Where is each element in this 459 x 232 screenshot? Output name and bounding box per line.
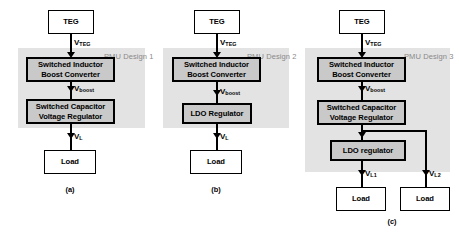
signal-vteg-b-sub: TEG (225, 41, 236, 47)
pmu-label-c: PMU Design 3 (404, 52, 448, 62)
teg-source-a: TEG (48, 10, 94, 34)
caption-c: (c) (372, 218, 412, 226)
block-sc-voltage-regulator-a-line2: Voltage Regulator (39, 112, 103, 121)
arrowhead-branch-to-ldo-c (358, 132, 366, 138)
block-ldo-regulator-b-line1: LDO Regulator (191, 109, 244, 118)
signal-vboost-b: Vboost (220, 88, 240, 96)
signal-vl1-c: VL1 (365, 170, 377, 178)
signal-vl-a: VL (74, 133, 83, 141)
caption-a: (a) (50, 186, 90, 194)
signal-vboost-a: Vboost (74, 85, 94, 93)
caption-b: (b) (196, 186, 236, 194)
pmu-label-c-line1: PMU (404, 52, 421, 61)
signal-vteg-c-sub: TEG (370, 41, 381, 47)
block-ldo-regulator-c-line1: LDO regulator (343, 146, 393, 155)
signal-vteg-a-sub: TEG (79, 41, 90, 47)
pmu-label-c-line2: Design 3 (423, 52, 453, 61)
signal-vboost-b-sub: boost (225, 90, 240, 96)
block-ldo-regulator-b: LDO Regulator (182, 103, 252, 124)
load-b-label: Load (207, 157, 225, 166)
block-boost-converter-b-line2: Boost Converter (187, 70, 246, 79)
signal-vteg-c: VTEG (365, 39, 381, 47)
block-boost-converter-a-line2: Boost Converter (41, 70, 100, 79)
signal-vl-a-sub: L (79, 135, 82, 141)
signal-vteg-b: VTEG (220, 39, 236, 47)
signal-vl2-c: VL2 (429, 170, 441, 178)
block-boost-converter-a: Switched Inductor Boost Converter (26, 57, 115, 82)
block-boost-converter-b: Switched Inductor Boost Converter (172, 57, 261, 82)
block-boost-converter-c-line2: Boost Converter (332, 70, 391, 79)
block-sc-voltage-regulator-c-line2: Voltage Regulator (330, 113, 394, 122)
signal-vboost-c: Vboost (365, 85, 385, 93)
load1-c-label: Load (352, 194, 370, 203)
load2-c-label: Load (416, 194, 434, 203)
signal-vboost-c-sub: boost (370, 87, 385, 93)
block-sc-voltage-regulator-c: Switched Capacitor Voltage Regulator (317, 100, 406, 125)
load2-c: Load (400, 187, 450, 211)
load-a-label: Load (61, 157, 79, 166)
load1-c: Load (336, 187, 386, 211)
branch-horizontal-c (361, 130, 427, 132)
signal-vboost-a-sub: boost (79, 87, 94, 93)
signal-vteg-a: VTEG (74, 39, 90, 47)
pmu-design-comparison-figure: PMU Design 1 TEG VTEG Switched Inductor … (0, 0, 459, 232)
load-b: Load (190, 150, 242, 174)
pmu-label-b-line2: Design 2 (266, 52, 296, 61)
teg-source-b-label: TEG (209, 17, 224, 26)
block-boost-converter-c: Switched Inductor Boost Converter (317, 57, 406, 82)
teg-source-c-label: TEG (354, 17, 369, 26)
block-sc-voltage-regulator-c-line1: Switched Capacitor (327, 103, 397, 112)
block-boost-converter-c-line1: Switched Inductor (329, 60, 394, 69)
block-sc-voltage-regulator-a: Switched Capacitor Voltage Regulator (26, 99, 115, 124)
pmu-label-a-line2: Design 1 (123, 52, 153, 61)
block-ldo-regulator-c: LDO regulator (330, 140, 406, 161)
load-a: Load (44, 150, 96, 174)
connector-branch-to-load2-c (425, 130, 427, 187)
teg-source-a-label: TEG (63, 17, 78, 26)
block-sc-voltage-regulator-a-line1: Switched Capacitor (36, 102, 106, 111)
signal-vl-b-sub: L (225, 135, 228, 141)
signal-vl2-c-sub: L2 (434, 172, 440, 178)
signal-vl1-c-sub: L1 (370, 172, 376, 178)
block-boost-converter-a-line1: Switched Inductor (38, 60, 103, 69)
teg-source-c: TEG (339, 10, 385, 34)
signal-vl-b: VL (220, 133, 229, 141)
teg-source-b: TEG (194, 10, 240, 34)
block-boost-converter-b-line1: Switched Inductor (184, 60, 249, 69)
